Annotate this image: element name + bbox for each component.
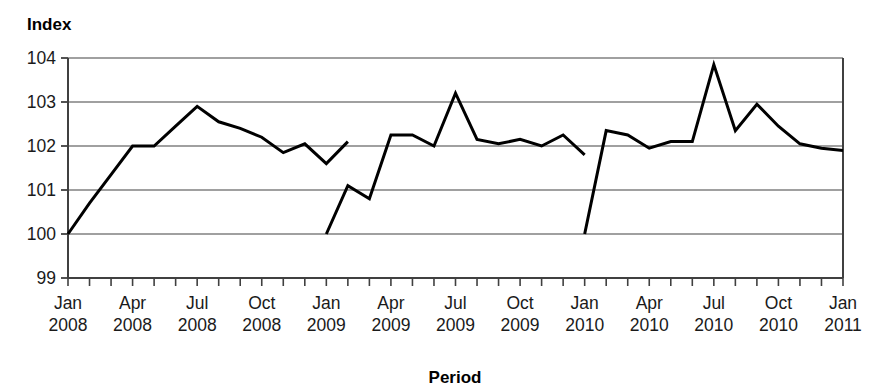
x-tick-label-year: 2008 <box>49 315 88 335</box>
x-tick-marks-group <box>68 278 843 286</box>
x-tick-label-year: 2010 <box>630 315 669 335</box>
x-tick-label-year: 2010 <box>759 315 798 335</box>
x-tick-label-month: Oct <box>765 293 792 313</box>
x-tick-label-month: Jul <box>186 293 208 313</box>
x-tick-label-month: Jan <box>571 293 599 313</box>
x-tick-label-year: 2008 <box>242 315 281 335</box>
data-series-line <box>585 65 843 234</box>
y-axis-title-group: Index <box>27 15 72 34</box>
x-tick-label-month: Jan <box>54 293 82 313</box>
data-series-group <box>68 65 843 234</box>
y-tick-label: 102 <box>27 136 56 156</box>
x-tick-label-month: Oct <box>248 293 275 313</box>
x-tick-label-month: Jul <box>444 293 466 313</box>
x-tick-label-month: Apr <box>636 293 663 313</box>
gridlines-group <box>68 58 843 234</box>
y-tick-label: 100 <box>27 224 56 244</box>
index-line-chart: Index 99100101102103104 Jan2008Apr2008Ju… <box>0 0 886 391</box>
x-tick-label-year: 2008 <box>113 315 152 335</box>
x-tick-label-month: Apr <box>119 293 146 313</box>
y-tick-label: 101 <box>27 180 56 200</box>
x-tick-label-year: 2011 <box>824 315 862 335</box>
y-axis-title: Index <box>27 15 72 34</box>
x-tick-label-year: 2009 <box>371 315 410 335</box>
x-tick-label-year: 2009 <box>307 315 346 335</box>
x-tick-label-month: Apr <box>377 293 404 313</box>
x-tick-labels-group: Jan2008Apr2008Jul2008Oct2008Jan2009Apr20… <box>49 293 862 335</box>
x-axis-title: Period <box>429 368 482 387</box>
y-tick-labels-group: 99100101102103104 <box>27 48 68 288</box>
chart-svg: Index 99100101102103104 Jan2008Apr2008Ju… <box>0 0 886 391</box>
x-tick-label-year: 2008 <box>178 315 217 335</box>
x-tick-label-year: 2009 <box>501 315 540 335</box>
y-tick-label: 99 <box>37 268 56 288</box>
x-tick-label-year: 2009 <box>436 315 475 335</box>
y-tick-label: 103 <box>27 92 56 112</box>
y-tick-label: 104 <box>27 48 56 68</box>
data-series-line <box>326 93 584 234</box>
x-tick-label-month: Oct <box>506 293 533 313</box>
x-tick-label-year: 2010 <box>565 315 604 335</box>
data-series-line <box>68 106 348 234</box>
x-tick-label-month: Jan <box>829 293 857 313</box>
x-tick-label-year: 2010 <box>694 315 733 335</box>
x-tick-label-month: Jul <box>703 293 725 313</box>
x-tick-label-month: Jan <box>312 293 340 313</box>
